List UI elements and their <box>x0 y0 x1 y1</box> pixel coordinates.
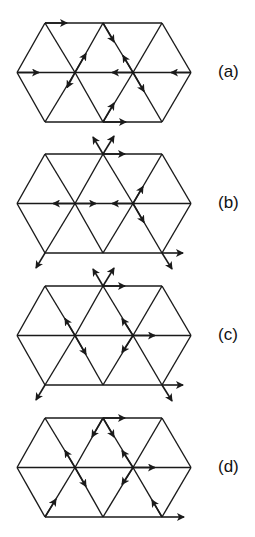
panel-label-d: (d) <box>218 457 239 477</box>
arrow <box>122 468 133 485</box>
arrow <box>162 385 172 401</box>
arrow <box>92 418 103 437</box>
lattice-edge <box>45 204 75 254</box>
lattice-edge <box>75 204 103 254</box>
arrow <box>75 468 86 487</box>
lattice-diagram <box>0 0 255 537</box>
arrow <box>133 73 144 92</box>
lattice-edge <box>17 286 45 336</box>
arrow <box>93 137 103 154</box>
arrow <box>67 73 75 88</box>
arrow <box>123 56 133 73</box>
lattice-edge <box>162 204 191 254</box>
arrow <box>36 253 45 268</box>
lattice-edge <box>17 468 45 518</box>
arrow <box>65 451 75 468</box>
arrow <box>75 54 86 73</box>
arrow <box>93 269 103 286</box>
arrow <box>103 268 114 286</box>
arrow <box>122 319 133 336</box>
lattice-edge <box>162 154 191 204</box>
arrow <box>133 187 143 204</box>
lattice-edge <box>133 23 162 73</box>
lattice-edge <box>162 468 191 518</box>
lattice-edge <box>133 336 162 386</box>
lattice-edge <box>162 418 191 468</box>
lattice-edge <box>17 204 45 254</box>
panel-label-b: (b) <box>218 193 239 213</box>
lattice-edge <box>75 286 103 336</box>
arrow <box>103 136 114 154</box>
lattice-edge <box>75 154 103 204</box>
panel-label-a: (a) <box>218 62 239 82</box>
lattice-edge <box>75 73 103 123</box>
arrow <box>103 23 114 42</box>
lattice-edge <box>17 73 45 123</box>
lattice-edge <box>162 73 191 123</box>
lattice-edge <box>103 204 133 254</box>
lattice-edge <box>103 154 133 204</box>
lattice-edge <box>17 336 45 386</box>
lattice-edge <box>17 154 45 204</box>
arrow <box>122 336 133 353</box>
lattice-edge <box>162 23 191 73</box>
lattice-edge <box>133 418 162 468</box>
lattice-edge <box>162 336 191 386</box>
arrow <box>36 385 45 400</box>
arrow <box>75 336 86 355</box>
arrow <box>103 103 114 122</box>
panel-label-c: (c) <box>218 325 238 345</box>
lattice-edge <box>17 23 45 73</box>
arrow <box>162 253 172 269</box>
arrow <box>122 451 133 468</box>
arrow <box>133 204 144 223</box>
lattice-edge <box>45 154 75 204</box>
lattice-edge <box>45 336 75 386</box>
lattice-edge <box>133 286 162 336</box>
arrow <box>45 499 56 517</box>
arrow <box>103 418 114 437</box>
arrow <box>152 500 162 517</box>
lattice-edge <box>17 418 45 468</box>
lattice-edge <box>45 23 75 73</box>
lattice-edge <box>162 286 191 336</box>
arrow <box>65 319 75 336</box>
